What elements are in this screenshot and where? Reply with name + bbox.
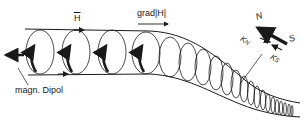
- force-arrow-KN: [260, 38, 270, 42]
- force-arrow-KS: [272, 45, 282, 50]
- field-line-top: [25, 29, 300, 103]
- field-line-bottom: [28, 74, 300, 117]
- diagram-canvas: magn. Dipol H grad|H| N S KN KS: [0, 0, 304, 125]
- gyration-loops: [26, 30, 293, 117]
- magnetic-dipole-label: magn. Dipol: [15, 86, 63, 95]
- dipole-arrows: [31, 46, 144, 72]
- compass-needle-NS: [258, 28, 287, 44]
- gradient-label: grad|H|: [137, 9, 166, 18]
- field-h-label: H: [74, 14, 81, 23]
